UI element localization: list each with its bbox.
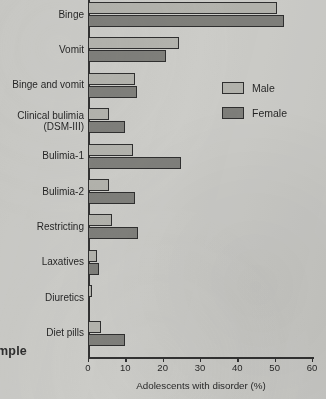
category-label-9: Diet pills — [46, 327, 84, 339]
bar-female-7 — [88, 263, 99, 275]
bar-male-8 — [88, 285, 92, 297]
x-tick-label-40: 40 — [232, 362, 243, 373]
x-tick-label-20: 20 — [157, 362, 168, 373]
legend-swatch-male-icon — [222, 82, 244, 94]
plot-area: 0102030405060 BingeVomitBinge and vomitC… — [0, 0, 326, 399]
category-label-3: Clinical bulimia (DSM-III) — [17, 109, 84, 132]
bar-male-2 — [88, 73, 135, 85]
bar-female-4 — [88, 157, 181, 169]
category-label-5: Bulimia-2 — [42, 186, 84, 198]
x-tick-label-10: 10 — [120, 362, 131, 373]
bar-male-3 — [88, 108, 109, 120]
bar-male-4 — [88, 144, 133, 156]
bar-male-9 — [88, 321, 101, 333]
chart-legend: Male Female — [222, 82, 287, 132]
category-label-6: Restricting — [37, 221, 84, 233]
bar-female-9 — [88, 334, 125, 346]
bar-male-1 — [88, 37, 179, 49]
legend-swatch-female-icon — [222, 107, 244, 119]
bar-female-3 — [88, 121, 125, 133]
bar-female-2 — [88, 86, 137, 98]
bar-female-5 — [88, 192, 135, 204]
legend-item-female: Female — [222, 107, 287, 119]
chart-page: mple 0102030405060 BingeVomitBinge and v… — [0, 0, 326, 399]
category-label-2: Binge and vomit — [12, 80, 84, 92]
x-tick-label-30: 30 — [195, 362, 206, 373]
category-label-4: Bulimia-1 — [42, 150, 84, 162]
legend-item-male: Male — [222, 82, 287, 94]
bar-female-8 — [88, 298, 90, 310]
legend-label-male: Male — [252, 82, 275, 94]
bar-female-6 — [88, 227, 138, 239]
bar-female-1 — [88, 50, 166, 62]
x-tick-label-60: 60 — [307, 362, 318, 373]
x-axis-title: Adolescents with disorder (%) — [88, 380, 314, 391]
category-label-0: Binge — [58, 9, 84, 21]
bar-male-7 — [88, 250, 97, 262]
legend-label-female: Female — [252, 107, 287, 119]
bar-female-0 — [88, 15, 284, 27]
x-tick-label-0: 0 — [85, 362, 90, 373]
bar-male-5 — [88, 179, 109, 191]
bar-male-0 — [88, 2, 277, 14]
category-label-1: Vomit — [59, 44, 84, 56]
bar-male-6 — [88, 214, 112, 226]
category-label-7: Laxatives — [42, 257, 84, 269]
x-tick-label-50: 50 — [269, 362, 280, 373]
category-label-8: Diuretics — [45, 292, 84, 304]
